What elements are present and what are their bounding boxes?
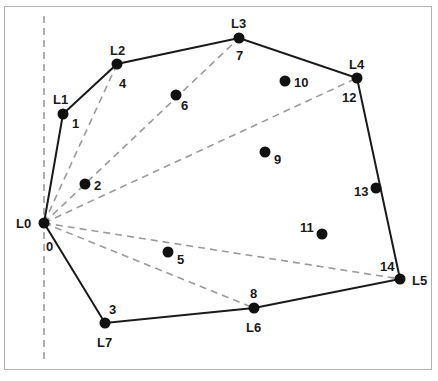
index-labels: 0 1 2 3 4 5 6 7 8 9 10 11 12 13 14 (46, 48, 395, 317)
hull-label-L2: L2 (110, 43, 125, 58)
fan-edge-L0-L5 (44, 223, 400, 279)
fan-edge-L0-L2 (44, 64, 117, 223)
point-4 (112, 59, 123, 70)
point-6 (171, 90, 182, 101)
hull-label-L1: L1 (53, 92, 68, 107)
index-label-7: 7 (236, 48, 243, 63)
point-11 (317, 229, 328, 240)
point-13 (371, 183, 382, 194)
point-3 (100, 318, 111, 329)
index-label-4: 4 (119, 76, 127, 91)
point-7 (234, 33, 245, 44)
index-label-10: 10 (294, 75, 308, 90)
index-label-12: 12 (342, 90, 356, 105)
index-label-3: 3 (109, 302, 116, 317)
index-label-13: 13 (354, 184, 368, 199)
point-8 (249, 303, 260, 314)
convex-hull-diagram: L0 L1 L2 L3 L4 L5 L6 L7 0 1 2 3 4 5 6 7 … (0, 0, 438, 381)
index-label-11: 11 (300, 220, 314, 235)
hull-label-L0: L0 (16, 216, 31, 231)
hull-label-L3: L3 (231, 16, 246, 31)
point-0 (39, 218, 50, 229)
index-label-8: 8 (250, 286, 257, 301)
index-label-1: 1 (72, 116, 79, 131)
index-label-9: 9 (274, 152, 281, 167)
hull-label-L7: L7 (97, 335, 112, 350)
fan-edge-L0-L6 (44, 223, 254, 308)
hull-label-L4: L4 (349, 57, 365, 72)
point-1 (58, 109, 69, 120)
index-label-6: 6 (181, 98, 188, 113)
hull-label-L5: L5 (412, 273, 427, 288)
index-label-14: 14 (380, 259, 395, 274)
index-label-2: 2 (94, 178, 101, 193)
hull-labels: L0 L1 L2 L3 L4 L5 L6 L7 (16, 16, 427, 350)
point-12 (352, 73, 363, 84)
point-9 (260, 147, 271, 158)
fan-edges (44, 38, 400, 308)
point-2 (80, 179, 91, 190)
point-5 (163, 247, 174, 258)
hull-label-L6: L6 (246, 320, 261, 335)
point-14 (395, 274, 406, 285)
index-label-0: 0 (46, 239, 53, 254)
point-10 (280, 76, 291, 87)
fan-edge-L0-L4 (44, 78, 357, 223)
index-label-5: 5 (177, 252, 184, 267)
